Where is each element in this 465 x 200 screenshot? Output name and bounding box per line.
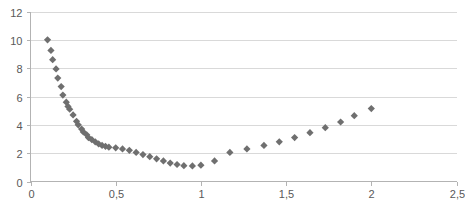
axes — [27, 12, 458, 186]
data-point-marker — [180, 162, 187, 169]
data-point-marker — [58, 83, 65, 90]
gridlines — [31, 13, 457, 154]
data-point-marker — [189, 162, 196, 169]
data-point-marker — [337, 118, 344, 125]
data-point-marker — [197, 162, 204, 169]
y-axis-tick-label: 0 — [16, 177, 22, 189]
scatter-chart: 024681012 00,511,522,5 — [0, 0, 465, 200]
data-point-marker — [160, 157, 167, 164]
x-axis-tick-label: 0 — [28, 188, 34, 200]
data-point-marker — [49, 56, 56, 63]
x-axis-tick-label: 1,5 — [279, 188, 294, 200]
data-point-markers — [44, 36, 375, 169]
x-axis-tick-label: 0,5 — [109, 188, 124, 200]
data-point-marker — [260, 142, 267, 149]
data-point-marker — [70, 111, 77, 118]
y-axis-tick-label: 2 — [16, 148, 22, 160]
y-axis-tick-label: 4 — [16, 120, 22, 132]
data-point-marker — [153, 155, 160, 162]
data-point-marker — [173, 161, 180, 168]
data-point-marker — [146, 153, 153, 160]
data-point-marker — [139, 151, 146, 158]
y-axis-tick-label: 6 — [16, 92, 22, 104]
data-point-marker — [243, 145, 250, 152]
y-axis-tick-label: 10 — [10, 35, 22, 47]
data-point-marker — [276, 138, 283, 145]
data-point-marker — [167, 159, 174, 166]
data-point-marker — [306, 129, 313, 136]
x-axis-tick-label: 2,5 — [450, 188, 465, 200]
x-axis-tick-labels: 00,511,522,5 — [28, 188, 465, 200]
y-axis-tick-label: 12 — [10, 7, 22, 19]
data-point-marker — [112, 144, 119, 151]
data-point-marker — [52, 65, 59, 72]
data-point-marker — [291, 134, 298, 141]
y-axis-tick-label: 8 — [16, 63, 22, 75]
data-point-marker — [351, 112, 358, 119]
data-point-marker — [133, 149, 140, 156]
data-point-marker — [54, 74, 61, 81]
data-point-marker — [126, 147, 133, 154]
data-point-marker — [47, 47, 54, 54]
chart-container: 024681012 00,511,522,5 — [0, 0, 465, 200]
data-point-marker — [44, 36, 51, 43]
data-point-marker — [211, 157, 218, 164]
x-axis-tick-label: 2 — [368, 188, 374, 200]
y-axis-tick-labels: 024681012 — [10, 7, 22, 189]
data-point-marker — [119, 145, 126, 152]
x-axis-tick-label: 1 — [198, 188, 204, 200]
data-point-marker — [368, 105, 375, 112]
data-point-marker — [226, 149, 233, 156]
